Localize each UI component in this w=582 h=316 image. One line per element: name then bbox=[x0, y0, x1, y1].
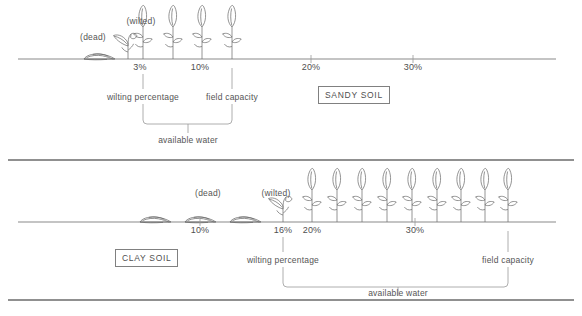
sandy-field-capacity-label: field capacity bbox=[206, 92, 258, 102]
sandy-available-water-bracket bbox=[143, 104, 232, 124]
sandy-plant-2 bbox=[164, 5, 183, 59]
clay-plant-3 bbox=[353, 168, 372, 222]
clay-tick-label-16: 16% bbox=[274, 225, 293, 235]
sandy-available-water-label: available water bbox=[158, 135, 218, 145]
sandy-plant-4 bbox=[223, 5, 242, 59]
sandy-panel bbox=[18, 5, 556, 133]
clay-plant-2 bbox=[328, 168, 347, 222]
clay-plant-9 bbox=[499, 168, 518, 222]
soil-moisture-diagram: (dead) (wilted) 3% 10% 20% 30% wilting p… bbox=[0, 0, 582, 316]
clay-dead-plant-2 bbox=[185, 217, 216, 223]
clay-tick-label-30: 30% bbox=[406, 225, 425, 235]
clay-dead-label: (dead) bbox=[195, 188, 221, 198]
sandy-wilted-plant bbox=[114, 33, 138, 59]
clay-tick-label-20: 20% bbox=[303, 225, 322, 235]
clay-plant-6 bbox=[428, 168, 447, 222]
clay-wilted-plant bbox=[269, 196, 293, 222]
sandy-plant-1 bbox=[134, 5, 153, 59]
sandy-wilting-percentage-label: wilting percentage bbox=[107, 92, 179, 102]
sandy-tick-label-30: 30% bbox=[404, 62, 423, 72]
sandy-tick-label-20: 20% bbox=[302, 62, 321, 72]
clay-plant-7 bbox=[452, 168, 471, 222]
sandy-wilted-label: (wilted) bbox=[127, 16, 156, 26]
clay-tick-label-10: 10% bbox=[191, 225, 210, 235]
diagram-canvas bbox=[0, 0, 582, 316]
sandy-dead-label: (dead) bbox=[80, 32, 106, 42]
sandy-soil-badge: SANDY SOIL bbox=[318, 86, 390, 104]
clay-wilted-label: (wilted) bbox=[262, 188, 291, 198]
sandy-dead-plant bbox=[84, 54, 115, 60]
sandy-plant-3 bbox=[193, 5, 212, 59]
clay-available-water-label: available water bbox=[368, 288, 428, 298]
clay-plant-4 bbox=[378, 168, 397, 222]
clay-plant-8 bbox=[476, 168, 495, 222]
clay-dead-plant-3 bbox=[230, 217, 261, 223]
clay-available-water-bracket bbox=[283, 267, 508, 287]
clay-plant-1 bbox=[303, 168, 322, 222]
clay-wilting-percentage-label: wilting percentage bbox=[247, 255, 319, 265]
sandy-tick-label-10: 10% bbox=[191, 62, 210, 72]
sandy-tick-label-3: 3% bbox=[133, 62, 146, 72]
clay-field-capacity-label: field capacity bbox=[482, 255, 534, 265]
clay-dead-plant-1 bbox=[140, 217, 171, 223]
clay-plant-5 bbox=[403, 168, 422, 222]
clay-soil-badge: CLAY SOIL bbox=[115, 249, 178, 267]
